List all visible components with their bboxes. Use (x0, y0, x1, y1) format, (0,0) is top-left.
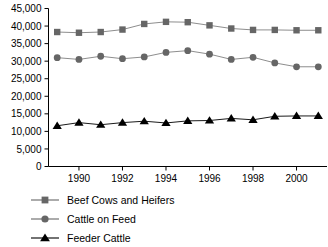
y-tick-label: 35,000 (11, 38, 42, 49)
legend-item-1[interactable]: Beef Cows and Heifers (31, 194, 174, 206)
legend-label: Cattle on Feed (67, 213, 136, 225)
y-tick-label: 45,000 (11, 3, 42, 14)
data-point (206, 22, 212, 28)
data-point (98, 29, 104, 35)
data-point (292, 112, 301, 119)
y-tick-label: 5,000 (16, 144, 41, 155)
data-point (228, 56, 235, 63)
series-container (53, 19, 323, 129)
data-point (228, 25, 234, 31)
data-point (206, 51, 213, 58)
y-tick-label: 25,000 (11, 73, 42, 84)
data-point (185, 19, 191, 25)
data-point (97, 53, 104, 60)
data-point (141, 21, 147, 27)
data-point (119, 55, 126, 62)
legend-item-3[interactable]: Feeder Cattle (31, 232, 131, 244)
data-point (250, 27, 256, 33)
data-point (54, 54, 61, 61)
legend-marker-square (42, 197, 49, 204)
data-point (272, 27, 278, 33)
data-point (76, 30, 82, 36)
y-tick-label: 15,000 (11, 108, 42, 119)
data-point (293, 63, 300, 70)
y-tick-label: 0 (36, 161, 42, 172)
legend-marker-circle (41, 215, 48, 222)
data-point (141, 54, 148, 61)
y-tick-label: 40,000 (11, 21, 42, 32)
data-point (315, 27, 321, 33)
legend-label: Beef Cows and Heifers (67, 194, 174, 206)
data-point (250, 54, 257, 61)
data-point (271, 60, 278, 67)
series-1 (54, 19, 321, 36)
y-tick-label: 30,000 (11, 56, 42, 67)
x-tick-label: 1990 (68, 173, 91, 184)
data-point (184, 47, 191, 54)
data-point (76, 56, 83, 63)
legend-item-2[interactable]: Cattle on Feed (31, 213, 136, 225)
data-point (314, 112, 323, 119)
data-point (270, 112, 279, 119)
legend-label: Feeder Cattle (67, 232, 131, 244)
data-point (163, 49, 170, 56)
data-point (140, 117, 149, 124)
chart-canvas: 05,00010,00015,00020,00025,00030,00035,0… (0, 0, 328, 247)
data-point (54, 29, 60, 35)
line-chart: 05,00010,00015,00020,00025,00030,00035,0… (0, 0, 328, 247)
x-tick-label: 1992 (111, 173, 134, 184)
x-tick-label: 1996 (198, 173, 221, 184)
y-tick-label: 20,000 (11, 91, 42, 102)
x-axis: 199019921994199619982000 (49, 167, 328, 184)
data-point (293, 27, 299, 33)
x-tick-label: 2000 (285, 173, 308, 184)
data-point (227, 114, 236, 121)
chart-legend: Beef Cows and HeifersCattle on FeedFeede… (31, 194, 174, 244)
x-tick-label: 1994 (155, 173, 178, 184)
data-point (119, 26, 125, 32)
x-tick-label: 1998 (242, 173, 265, 184)
data-point (163, 19, 169, 25)
data-point (183, 117, 192, 124)
data-point (315, 63, 322, 70)
y-axis: 05,00010,00015,00020,00025,00030,00035,0… (11, 3, 49, 172)
series-2 (54, 47, 322, 70)
data-point (74, 118, 83, 125)
y-tick-label: 10,000 (11, 126, 42, 137)
legend-marker-triangle (40, 233, 50, 241)
series-3 (53, 112, 323, 129)
